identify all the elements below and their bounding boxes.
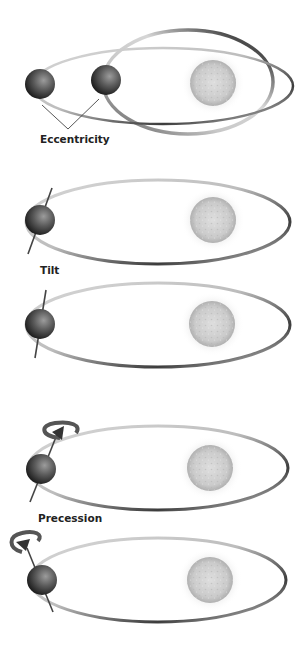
- planet-1: [25, 69, 55, 99]
- label-eccentricity: Eccentricity: [40, 133, 110, 145]
- sun: [181, 188, 245, 252]
- planet: [27, 565, 57, 595]
- label-tilt: Tilt: [40, 264, 59, 276]
- panel-tilt-2: [25, 283, 290, 367]
- panel-eccentricity: [25, 30, 293, 134]
- sun: [178, 436, 242, 500]
- orbit-elongated: [33, 48, 293, 124]
- orbit: [26, 180, 290, 264]
- planet-2: [91, 65, 121, 95]
- panel-tilt-1: [25, 180, 290, 264]
- orbit: [30, 538, 286, 622]
- planet: [26, 454, 56, 484]
- planet: [25, 205, 55, 235]
- panel-precession-1: [26, 422, 288, 510]
- sun: [178, 548, 242, 612]
- sun: [181, 51, 245, 115]
- panel-precession-2: [12, 532, 287, 622]
- precession-arrow-icon: [12, 532, 40, 552]
- sun: [180, 292, 244, 356]
- planet: [25, 309, 55, 339]
- label-precession: Precession: [38, 512, 102, 524]
- orbit: [26, 283, 290, 367]
- orbital-cycles-diagram: [0, 0, 307, 654]
- orbit: [28, 426, 288, 510]
